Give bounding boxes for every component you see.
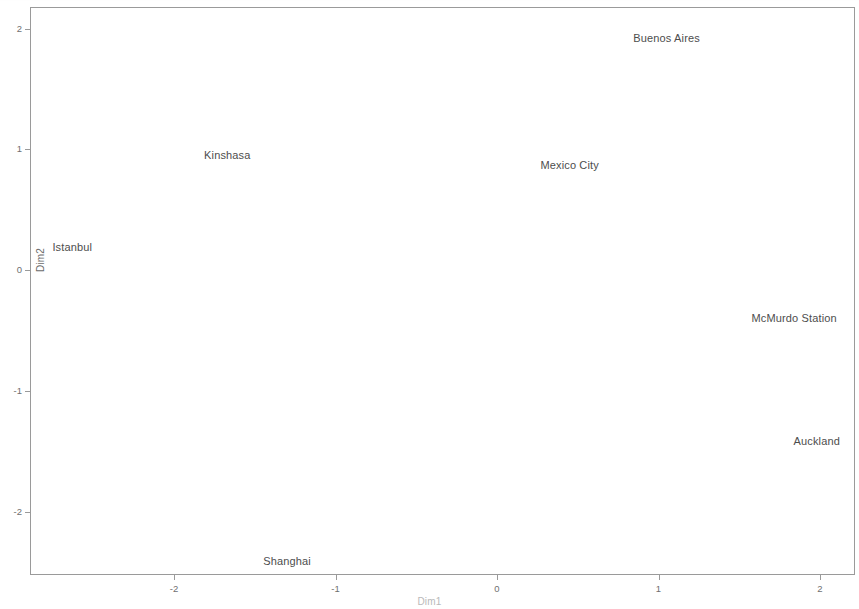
y-tick-label: -2: [14, 505, 22, 518]
y-tick-label: 1: [17, 142, 22, 155]
y-tick-mark: [25, 512, 30, 513]
x-tick-mark: [336, 575, 337, 580]
y-axis-tick: 1: [0, 149, 30, 150]
y-tick-mark: [25, 29, 30, 30]
data-point-label: Istanbul: [52, 241, 92, 254]
x-tick-mark: [659, 575, 660, 580]
y-tick-mark: [25, 270, 30, 271]
y-tick-label: 0: [17, 263, 22, 276]
y-axis-tick: 2: [0, 29, 30, 30]
x-tick-label: -2: [160, 583, 188, 594]
x-tick-label: 2: [806, 583, 834, 594]
x-tick-label: 1: [645, 583, 673, 594]
y-tick-mark: [25, 149, 30, 150]
y-tick-label: -1: [14, 384, 22, 397]
y-axis-tick: -2: [0, 512, 30, 513]
x-tick-label: 0: [483, 583, 511, 594]
data-point-label: Auckland: [794, 435, 840, 448]
x-tick-mark: [497, 575, 498, 580]
data-point-label: McMurdo Station: [751, 312, 836, 325]
scatter-plot-chart: Dim2 210-1-2 -2-1012 Dim1 Buenos AiresKi…: [0, 0, 859, 609]
y-axis-title: Dim2: [35, 215, 46, 305]
x-tick-label: -1: [322, 583, 350, 594]
data-point-label: Buenos Aires: [633, 32, 700, 45]
x-tick-mark: [820, 575, 821, 580]
x-axis-title: Dim1: [0, 596, 859, 609]
y-axis-tick: 0: [0, 270, 30, 271]
y-tick-mark: [25, 391, 30, 392]
x-tick-mark: [174, 575, 175, 580]
plot-area-frame: [30, 7, 855, 575]
y-axis-tick: -1: [0, 391, 30, 392]
y-tick-label: 2: [17, 22, 22, 35]
data-point-label: Shanghai: [263, 555, 311, 568]
data-point-label: Kinshasa: [204, 149, 250, 162]
data-point-label: Mexico City: [540, 158, 599, 171]
